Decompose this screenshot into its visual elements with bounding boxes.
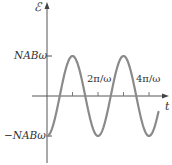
x-axis-arrow-icon — [162, 94, 169, 99]
y-axis-label: ℰ — [34, 1, 41, 13]
x-tick-label-2pi: 2π/ω — [87, 74, 111, 84]
y-max-label: NABω — [14, 50, 47, 61]
y-min-label: −NABω — [4, 130, 46, 141]
x-tick-label-4pi: 4π/ω — [136, 74, 160, 84]
y-axis-arrow-icon — [45, 2, 50, 9]
x-axis-label: t — [165, 101, 169, 112]
